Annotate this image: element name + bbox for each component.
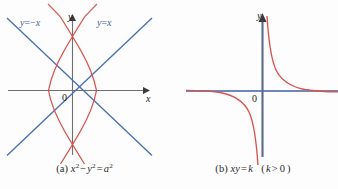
panel-b-caption-prefix: (b) <box>215 163 228 174</box>
asymptote-left-label: y=−x <box>20 17 40 28</box>
panel-a-caption-prefix: (a) <box>56 163 68 174</box>
y-axis-label: y <box>68 11 72 22</box>
asymptote-right-label: y=x <box>97 17 112 28</box>
panel-b-caption-expression: xy=k (k>0) <box>231 163 292 174</box>
hyperbola-right-branch-upper <box>61 17 97 91</box>
y-axis-label: y <box>257 10 261 21</box>
panel-b-plot <box>169 0 338 165</box>
panel-a-caption: (a) x2−y2=a2 <box>0 163 169 174</box>
origin-label: 0 <box>62 92 67 103</box>
panel-b-caption: (b) xy=k (k>0) <box>169 163 338 174</box>
panel-a-caption-expression: x2−y2=a2 <box>71 163 113 174</box>
hyperbola-left-branch-upper <box>49 17 85 91</box>
panel-a-hyperbola-xy-difference: y=−x y=x y x 0 (a) x2−y2=a2 <box>0 0 169 189</box>
hyperbola-branch-quadrant-1 <box>267 16 338 92</box>
hyperbola-right-upper-tail <box>48 4 61 17</box>
origin-label: 0 <box>252 93 257 104</box>
x-axis-label: x <box>146 93 150 104</box>
y-axis-group <box>69 14 76 155</box>
y-axis-group <box>259 13 267 157</box>
hyperbola-left-upper-tail <box>85 4 98 17</box>
hyperbola-branch-quadrant-3 <box>186 90 258 165</box>
figure-root: y=−x y=x y x 0 (a) x2−y2=a2 <box>0 0 338 189</box>
panel-b-hyperbola-xy-equals-k: y 0 (b) xy=k (k>0) <box>169 0 338 189</box>
